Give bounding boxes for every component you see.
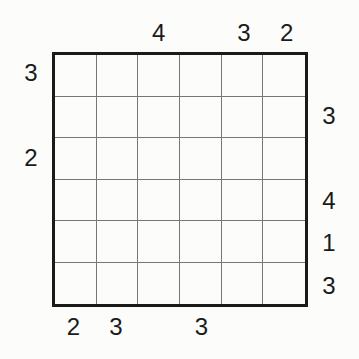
grid-cell[interactable] bbox=[97, 221, 139, 263]
grid-cell[interactable] bbox=[138, 97, 180, 139]
clue-bottom: 3 bbox=[104, 315, 128, 339]
grid-cell[interactable] bbox=[97, 55, 139, 97]
grid-cell[interactable] bbox=[97, 263, 139, 305]
grid-cell[interactable] bbox=[180, 97, 222, 139]
grid-cell[interactable] bbox=[55, 97, 97, 139]
grid-cell[interactable] bbox=[222, 180, 264, 222]
grid-cell[interactable] bbox=[222, 221, 264, 263]
clue-right: 3 bbox=[317, 274, 341, 298]
clue-bottom: 2 bbox=[61, 315, 85, 339]
clue-top: 4 bbox=[147, 21, 171, 45]
clue-right: 4 bbox=[317, 189, 341, 213]
clue-left: 3 bbox=[19, 61, 43, 85]
clue-right: 1 bbox=[317, 231, 341, 255]
grid-cell[interactable] bbox=[55, 55, 97, 97]
grid-cell[interactable] bbox=[180, 180, 222, 222]
grid-cell[interactable] bbox=[97, 138, 139, 180]
grid-cell[interactable] bbox=[222, 138, 264, 180]
grid-cell[interactable] bbox=[263, 97, 305, 139]
grid-cell[interactable] bbox=[55, 138, 97, 180]
grid-cell[interactable] bbox=[222, 263, 264, 305]
grid-cell[interactable] bbox=[180, 55, 222, 97]
grid-cell[interactable] bbox=[55, 180, 97, 222]
grid-cell[interactable] bbox=[222, 55, 264, 97]
clue-left: 2 bbox=[19, 146, 43, 170]
puzzle-grid bbox=[52, 52, 308, 307]
clue-right: 3 bbox=[317, 104, 341, 128]
grid-cell[interactable] bbox=[138, 221, 180, 263]
grid-cell[interactable] bbox=[263, 221, 305, 263]
grid-cell[interactable] bbox=[180, 263, 222, 305]
grid-cell[interactable] bbox=[138, 138, 180, 180]
clue-top: 2 bbox=[275, 21, 299, 45]
grid-cell[interactable] bbox=[97, 97, 139, 139]
grid-cell[interactable] bbox=[138, 55, 180, 97]
grid-cell[interactable] bbox=[97, 180, 139, 222]
grid-cell[interactable] bbox=[138, 180, 180, 222]
grid-cell[interactable] bbox=[263, 55, 305, 97]
grid-cell[interactable] bbox=[55, 221, 97, 263]
grid-cell[interactable] bbox=[263, 263, 305, 305]
clue-top: 3 bbox=[232, 21, 256, 45]
grid-cell[interactable] bbox=[222, 97, 264, 139]
grid-cell[interactable] bbox=[263, 138, 305, 180]
grid-cell[interactable] bbox=[138, 263, 180, 305]
clue-bottom: 3 bbox=[189, 315, 213, 339]
grid-cell[interactable] bbox=[180, 221, 222, 263]
grid-cell[interactable] bbox=[180, 138, 222, 180]
grid-cell[interactable] bbox=[55, 263, 97, 305]
grid-cell[interactable] bbox=[263, 180, 305, 222]
